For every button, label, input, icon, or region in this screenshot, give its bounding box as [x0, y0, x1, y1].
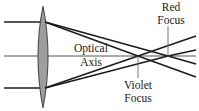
diverging-ray-upper-violet: [138, 56, 196, 77]
violet-focus-label: Violet Focus: [108, 79, 168, 104]
chromatic-aberration-diagram: Optical Axis Red Focus Violet Focus: [0, 0, 199, 111]
optical-axis-label-line1: Optical: [62, 42, 120, 54]
diverging-ray-lower-violet: [138, 36, 196, 56]
red-focus-label-line1: Red: [146, 1, 196, 13]
violet-focus-label-line1: Violet: [108, 79, 168, 91]
red-focus-label: Red Focus: [146, 1, 196, 26]
diverging-ray-lower-red: [168, 50, 196, 56]
violet-focus-label-line2: Focus: [108, 92, 168, 104]
diverging-ray-upper-red: [168, 56, 196, 64]
red-focus-label-line2: Focus: [146, 14, 196, 26]
optical-axis-label-line2: Axis: [62, 56, 120, 68]
optical-axis-label: Optical Axis: [62, 42, 120, 68]
